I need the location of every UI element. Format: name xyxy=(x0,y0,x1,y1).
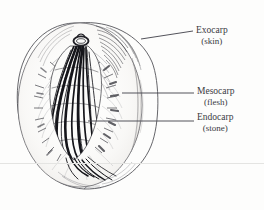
label-exocarp-main: Exocarp xyxy=(196,25,228,36)
label-endocarp-sub: (stone) xyxy=(197,123,233,134)
label-exocarp: Exocarp (skin) xyxy=(196,25,228,46)
label-exocarp-sub: (skin) xyxy=(196,36,228,47)
leader-line-exocarp xyxy=(141,31,193,39)
label-mesocarp-sub: (flesh) xyxy=(197,97,234,108)
label-mesocarp-main: Mesocarp xyxy=(197,86,234,97)
label-endocarp: Endocarp (stone) xyxy=(197,112,233,133)
label-mesocarp: Mesocarp (flesh) xyxy=(197,86,234,107)
figure-container: Exocarp (skin) Mesocarp (flesh) Endocarp… xyxy=(0,0,264,210)
label-endocarp-main: Endocarp xyxy=(197,112,233,123)
